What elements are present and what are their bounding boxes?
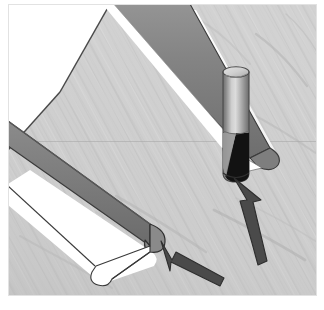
illustration-canvas [0, 0, 324, 310]
straight-router-bit [223, 67, 249, 182]
figure-illustration: Router bit cutting a stopped groove in a… [0, 0, 324, 310]
